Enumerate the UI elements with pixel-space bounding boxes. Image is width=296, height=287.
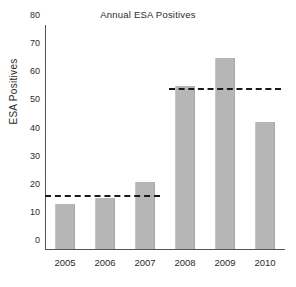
bar-2007 xyxy=(135,182,155,250)
x-axis-line xyxy=(45,249,285,250)
bar-2010 xyxy=(255,122,275,249)
x-tick-label: 2007 xyxy=(134,257,155,268)
y-tick-label: 30 xyxy=(30,151,40,161)
reference-line-mean-2005-2007 xyxy=(45,195,160,197)
y-tick-label: 10 xyxy=(30,207,40,217)
plot-area: 01020304050607080 2005200620072008200920… xyxy=(45,25,285,250)
x-tick-label: 2009 xyxy=(214,257,235,268)
x-tick-label: 2008 xyxy=(174,257,195,268)
chart-container: Annual ESA Positives ESA Positives 01020… xyxy=(0,0,296,287)
bar-2008 xyxy=(175,86,195,249)
y-tick-label: 70 xyxy=(30,38,40,48)
bar-2006 xyxy=(95,198,115,249)
y-tick-label: 50 xyxy=(30,94,40,104)
bar-2009 xyxy=(215,58,235,249)
chart-title: Annual ESA Positives xyxy=(0,9,296,20)
y-tick-label: 80 xyxy=(30,10,40,20)
y-tick-label: 40 xyxy=(30,123,40,133)
x-tick-label: 2005 xyxy=(54,257,75,268)
y-tick-label: 60 xyxy=(30,66,40,76)
bar-2005 xyxy=(55,204,75,249)
x-tick-label: 2010 xyxy=(254,257,275,268)
y-tick-label: 20 xyxy=(30,179,40,189)
y-axis-line xyxy=(45,25,46,250)
reference-line-mean-2008-2010 xyxy=(169,88,281,90)
y-axis-label: ESA Positives xyxy=(8,27,19,157)
y-tick-label: 0 xyxy=(35,235,40,245)
x-tick-label: 2006 xyxy=(94,257,115,268)
